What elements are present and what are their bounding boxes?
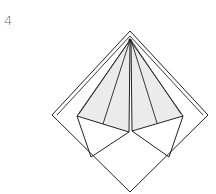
origami-diagram bbox=[0, 0, 216, 194]
apex-point bbox=[128, 38, 131, 41]
